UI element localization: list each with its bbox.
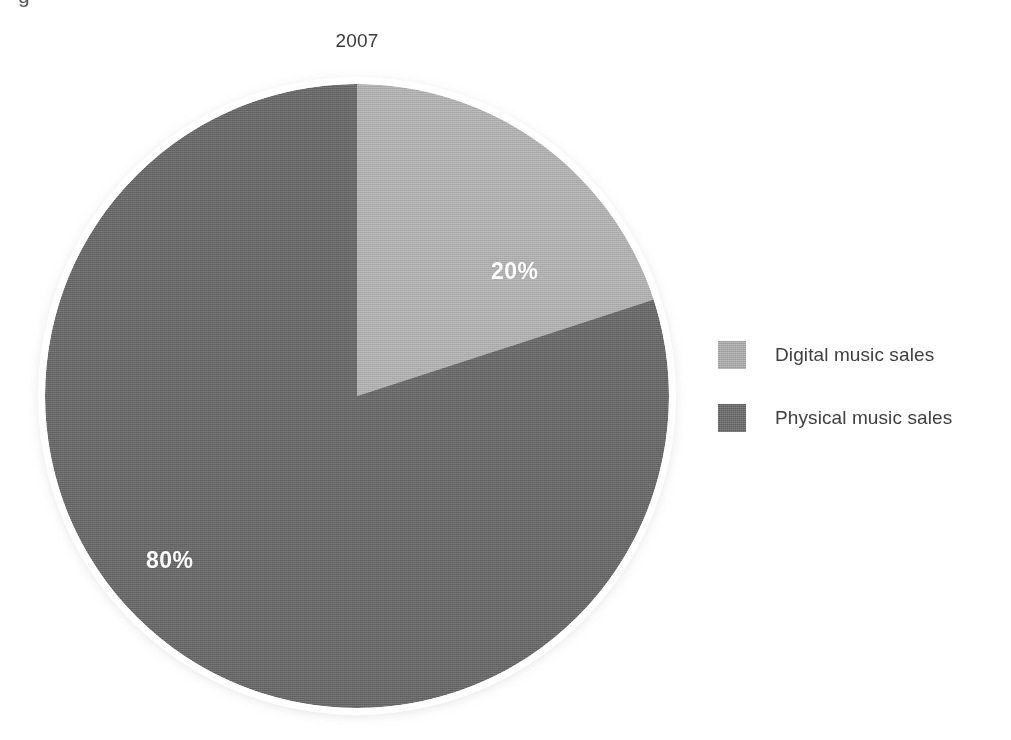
chart-title: 2007 (0, 30, 714, 52)
slice-label-physical: 80% (146, 547, 193, 574)
pie-chart-figure: g 2007 20% 80% Digital music sales Physi… (0, 0, 1011, 740)
legend-label-digital: Digital music sales (775, 344, 934, 366)
legend-item-digital: Digital music sales (718, 341, 952, 369)
pie-slices-svg (45, 84, 669, 708)
chart-legend: Digital music sales Physical music sales (718, 341, 952, 467)
caption-fragment-text: g (18, 0, 30, 8)
legend-swatch-digital-icon (718, 341, 746, 369)
legend-swatch-physical-icon (718, 404, 746, 432)
pie-chart: 20% 80% (38, 77, 676, 715)
legend-item-physical: Physical music sales (718, 404, 952, 432)
slice-label-digital: 20% (491, 258, 538, 285)
legend-label-physical: Physical music sales (775, 407, 952, 429)
pie-slices-container (45, 84, 669, 708)
